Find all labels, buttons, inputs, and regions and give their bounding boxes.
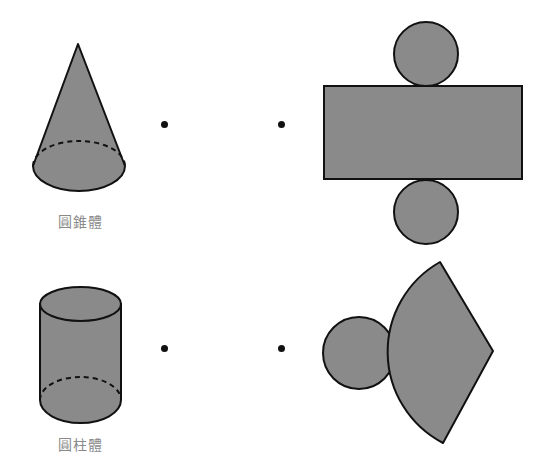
row2-right-dot [278,345,285,352]
cone-solid [33,44,125,191]
row2-left-dot [161,345,168,352]
cone-label: 圓錐體 [40,211,120,231]
cylinder-net [324,22,522,244]
net-rectangle [324,86,522,179]
row1-right-dot [278,121,285,128]
net-circle-bottom [394,180,458,244]
net-circle [323,317,395,389]
net-circle-top [394,22,458,86]
cylinder-label: 圓柱體 [40,434,120,454]
cone-net [323,262,493,443]
cylinder-solid [40,287,121,423]
row1-left-dot [161,121,168,128]
net-sector [388,262,493,443]
